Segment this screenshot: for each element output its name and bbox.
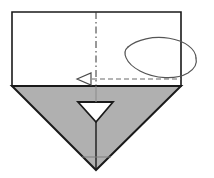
origami-figure <box>0 0 214 178</box>
origami-diagram-canvas <box>0 0 214 178</box>
